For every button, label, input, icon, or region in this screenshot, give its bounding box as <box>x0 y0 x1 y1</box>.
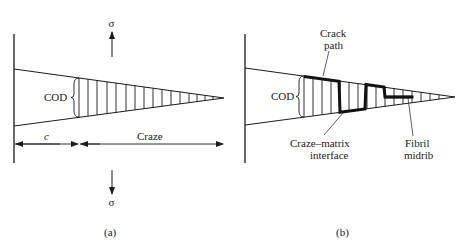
midrib-leader-line <box>408 98 413 136</box>
midrib-label-line2: midrib <box>404 149 434 161</box>
interface-label-line2: interface <box>310 149 349 161</box>
crack-path-label-line2: path <box>324 39 343 51</box>
panel-b: COD Crack path Craze–matrix interface Fi… <box>245 27 455 239</box>
interface-leader-line <box>324 113 343 135</box>
stress-bottom-label: σ <box>109 196 115 208</box>
craze-fibrils <box>79 78 213 117</box>
midrib-label-line1: Fibril <box>405 137 429 149</box>
panel-a-caption: (a) <box>104 226 117 239</box>
cod-label: COD <box>271 90 294 102</box>
cod-brace-icon <box>296 76 304 117</box>
stress-top-label: σ <box>109 17 115 29</box>
panel-a: COD c Craze σ σ (a) <box>14 17 224 239</box>
cod-label: COD <box>44 91 67 103</box>
cod-brace-icon <box>71 78 79 117</box>
crack-path-label-line1: Crack <box>320 27 347 39</box>
craze-fibrils <box>304 76 439 117</box>
crack-path-leader-line <box>323 51 329 76</box>
craze-label: Craze <box>137 130 163 142</box>
panel-b-caption: (b) <box>336 226 349 239</box>
crack-length-label: c <box>44 130 49 142</box>
interface-label-line1: Craze–matrix <box>290 137 350 149</box>
craze-diagram: COD c Craze σ σ (a) <box>0 0 472 247</box>
